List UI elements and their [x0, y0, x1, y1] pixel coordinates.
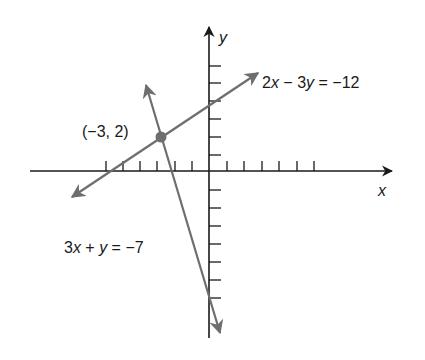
line1-equation-label: 2x − 3y = −12	[262, 74, 360, 91]
intersection-label: (−3, 2)	[82, 123, 129, 140]
x-axis-ticks	[106, 161, 314, 171]
y-axis-label: y	[218, 29, 228, 46]
graph-canvas: y x (−3, 2) 2x − 3y = −12 3x + y = −7	[0, 0, 425, 360]
intersection-point	[156, 132, 167, 143]
linear-system-graph: y x (−3, 2) 2x − 3y = −12 3x + y = −7	[0, 0, 425, 360]
line2-equation-label: 3x + y = −7	[64, 239, 144, 256]
x-axis-label: x	[377, 182, 387, 199]
